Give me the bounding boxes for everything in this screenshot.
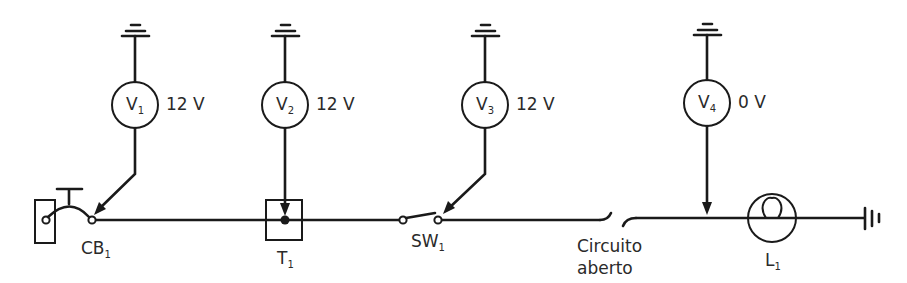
reading-v3: 12 V (516, 96, 555, 113)
voltmeter-v1 (94, 25, 158, 215)
meter-subscript: 1 (138, 105, 144, 116)
reading-v4: 0 V (738, 94, 766, 111)
meter-letter: V (126, 94, 138, 114)
component-subscript: 1 (287, 259, 293, 270)
component-subscript: 1 (105, 249, 111, 260)
voltmeter-v2 (262, 25, 308, 216)
meter-letter: V (476, 94, 488, 114)
voltmeter-v4 (684, 24, 730, 215)
ground-icon (694, 24, 721, 35)
ground-icon (122, 25, 149, 36)
meter-subscript: 4 (710, 103, 716, 114)
probe-arrow-icon (702, 202, 712, 215)
open-circuit-label-line2: aberto (577, 260, 633, 277)
label-l1: L1 (765, 252, 781, 272)
meter-label-v2: V2 (262, 96, 308, 116)
ground-icon (272, 25, 299, 36)
voltmeter-v3 (443, 25, 508, 214)
meter-subscript: 2 (288, 105, 294, 116)
circuit-diagram (0, 0, 907, 283)
meter-letter: V (276, 94, 288, 114)
switch-sw1 (399, 213, 441, 224)
component-letter: CB (81, 238, 105, 258)
circuit-breaker-cb1 (35, 189, 96, 243)
meter-subscript: 3 (488, 105, 494, 116)
component-subscript: 1 (774, 261, 780, 272)
reading-v2: 12 V (316, 96, 355, 113)
open-circuit-label-line1: Circuito (577, 238, 642, 255)
ground-icon (472, 25, 499, 36)
meter-label-v4: V4 (684, 94, 730, 114)
chassis-ground-icon (865, 208, 879, 229)
probe-arrow-icon (280, 203, 290, 216)
meter-label-v3: V3 (462, 96, 508, 116)
component-letter: SW (411, 231, 439, 251)
label-t1: T1 (277, 250, 294, 270)
label-cb1: CB1 (81, 240, 111, 260)
meter-letter: V (698, 92, 710, 112)
component-subscript: 1 (439, 242, 445, 253)
label-sw1: SW1 (411, 233, 445, 253)
meter-label-v1: V1 (112, 96, 158, 116)
reading-v1: 12 V (166, 96, 205, 113)
component-letter: T (277, 248, 287, 268)
